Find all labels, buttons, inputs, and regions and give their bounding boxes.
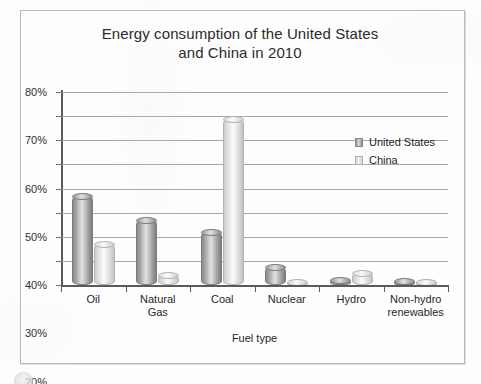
category-label-non-hydro-renewables: Non-hydrorenewables <box>378 293 455 319</box>
y-axis-tick-30: 30% <box>56 213 62 214</box>
y-axis-label-70: 70% <box>25 134 47 146</box>
bar-natural-gas-united-states <box>136 220 157 285</box>
x-axis-tick-5 <box>384 285 385 292</box>
category-label-line: renewables <box>378 306 455 319</box>
y-axis-tick-70: 70% <box>56 116 62 117</box>
gridline-10 <box>61 261 448 262</box>
bar-cap <box>265 264 286 271</box>
y-axis-label-50: 50% <box>25 231 47 243</box>
bar-oil-united-states <box>72 196 93 285</box>
x-axis-tick-0 <box>61 285 62 292</box>
x-axis-tick-6 <box>448 285 449 292</box>
x-axis-tick-1 <box>126 285 127 292</box>
bar-cap <box>352 270 373 277</box>
y-axis-label-30: 30% <box>25 327 47 339</box>
legend-swatch-icon-china <box>355 156 363 165</box>
page-artifact-circle <box>14 372 33 384</box>
x-axis-title: Fuel type <box>61 332 448 344</box>
chart-legend: United States China <box>355 134 435 170</box>
bar-natural-gas-china <box>158 275 179 285</box>
legend-item-china: China <box>355 152 435 168</box>
gridline-80 <box>61 92 448 93</box>
x-axis-tick-2 <box>190 285 191 292</box>
chart-title: Energy consumption of the United States … <box>40 24 440 62</box>
y-axis-tick-40: 40% <box>56 189 62 190</box>
gridline-40 <box>61 189 448 190</box>
x-axis-tick-3 <box>255 285 256 292</box>
y-axis-tick-50: 50% <box>56 164 62 165</box>
bar-cap <box>223 116 244 123</box>
bar-cap <box>72 193 93 200</box>
bar-coal-china <box>223 119 244 285</box>
legend-label-china: China <box>369 154 398 166</box>
bar-cap <box>330 277 351 284</box>
bar-cap <box>158 272 179 279</box>
scanned-page: Energy consumption of the United States … <box>0 0 481 384</box>
bar-cap <box>94 241 115 248</box>
y-axis-label-60: 60% <box>25 183 47 195</box>
legend-item-united-states: United States <box>355 134 435 150</box>
gridline-30 <box>61 213 448 214</box>
bar-hydro-china <box>352 273 373 285</box>
category-label-line: Gas <box>120 306 197 319</box>
y-axis-label-40: 40% <box>25 279 47 291</box>
y-axis-tick-20: 20% <box>56 237 62 238</box>
y-axis-tick-60: 60% <box>56 140 62 141</box>
legend-label-united-states: United States <box>369 136 435 148</box>
chart-title-line-2: and China in 2010 <box>40 43 440 62</box>
legend-swatch-icon-united-states <box>355 138 363 147</box>
y-axis-tick-10: 10% <box>56 261 62 262</box>
gridline-70 <box>61 116 448 117</box>
chart-title-line-1: Energy consumption of the United States <box>102 25 379 42</box>
category-label-line: Non-hydro <box>378 293 455 306</box>
bar-cap <box>136 217 157 224</box>
bar-coal-united-states <box>201 232 222 285</box>
x-axis-tick-4 <box>319 285 320 292</box>
y-axis-tick-80: 80% <box>56 92 62 93</box>
y-axis-label-80: 80% <box>25 86 47 98</box>
bar-cap <box>201 229 222 236</box>
bar-oil-china <box>94 244 115 285</box>
bar-nuclear-united-states <box>265 267 286 285</box>
gridline-20 <box>61 237 448 238</box>
plot-area: 0%10%20%30%40%50%60%70%80% <box>61 92 448 285</box>
